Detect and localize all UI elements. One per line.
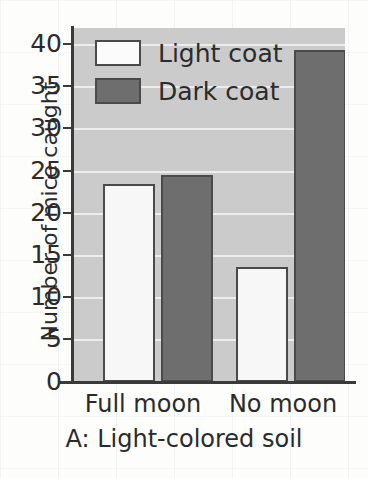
y-tick-mark-0 [63, 381, 72, 383]
y-tick-mark-20 [63, 212, 72, 214]
y-tick-label-40: 40 [14, 31, 62, 56]
legend-swatch-light-coat-icon [95, 40, 141, 66]
bar-no-moon-light-coat [236, 267, 288, 382]
x-category-label-no-moon: No moon [215, 390, 351, 418]
y-tick-mark-35 [63, 85, 72, 87]
y-tick-mark-5 [63, 338, 72, 340]
bar-chart-figure: Light coat Dark coat 40 35 30 25 20 15 1… [0, 0, 368, 478]
legend-label-dark-coat: Dark coat [158, 79, 279, 104]
bar-full-moon-light-coat [103, 184, 155, 382]
y-tick-mark-30 [63, 127, 72, 129]
legend-item-light-coat: Light coat [95, 34, 283, 72]
legend-label-light-coat: Light coat [158, 41, 283, 66]
x-axis-line [60, 381, 356, 384]
plot-area: Light coat Dark coat [73, 28, 345, 382]
legend-item-dark-coat: Dark coat [95, 72, 283, 110]
legend: Light coat Dark coat [95, 34, 283, 110]
y-tick-mark-10 [63, 296, 72, 298]
y-axis-line [71, 26, 74, 384]
bar-full-moon-dark-coat [161, 175, 213, 382]
y-tick-mark-25 [63, 170, 72, 172]
bar-no-moon-dark-coat [294, 50, 345, 382]
legend-swatch-dark-coat-icon [95, 78, 141, 104]
y-tick-mark-40 [63, 43, 72, 45]
y-axis-title: Number of mice caught [37, 67, 62, 357]
x-axis-title: A: Light-colored soil [0, 425, 368, 453]
x-category-label-full-moon: Full moon [75, 390, 211, 418]
y-tick-label-0: 0 [14, 369, 62, 394]
y-tick-mark-15 [63, 254, 72, 256]
